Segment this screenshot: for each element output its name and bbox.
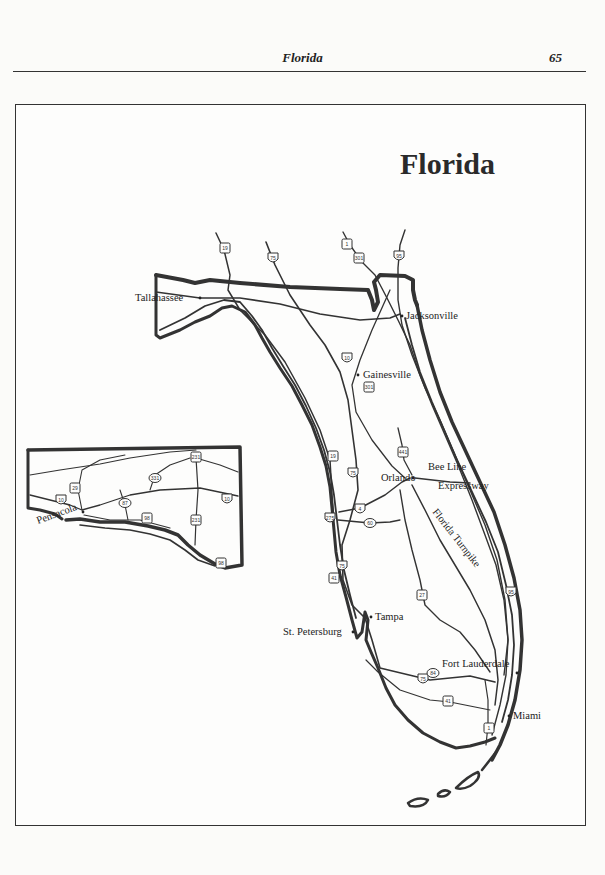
route-number: 441 bbox=[399, 449, 408, 455]
city-dot-icon bbox=[352, 631, 355, 634]
route-number: 41 bbox=[331, 575, 337, 581]
city-name: Jacksonville bbox=[406, 310, 458, 321]
route-shield-275: 275 bbox=[325, 513, 335, 522]
route-shield-10: 10 bbox=[342, 353, 352, 362]
route-number: 41 bbox=[445, 698, 451, 704]
route-shield-27: 27 bbox=[417, 590, 427, 600]
route-shield-75: 75 bbox=[337, 561, 347, 570]
city-tampa: Tampa bbox=[370, 611, 404, 622]
route-shield-75: 75 bbox=[348, 468, 358, 477]
route-number: 10 bbox=[58, 497, 64, 503]
route-shield-301: 301 bbox=[364, 382, 374, 392]
route-number: 275 bbox=[326, 515, 335, 521]
route-shield-95: 95 bbox=[394, 251, 404, 260]
route-shield-75: 75 bbox=[268, 253, 278, 262]
route-shield-4: 4 bbox=[355, 504, 365, 513]
route-shield-87: 87 bbox=[119, 499, 131, 508]
city-dot-icon bbox=[370, 616, 373, 619]
route-shield-301: 301 bbox=[354, 253, 364, 263]
city-name: Orlando bbox=[381, 472, 415, 483]
city-jacksonville: Jacksonville bbox=[401, 310, 459, 321]
route-shield-10: 10 bbox=[56, 495, 66, 504]
route-number: 75 bbox=[270, 255, 276, 261]
road-label: Expressway bbox=[438, 480, 489, 491]
inset-road-north bbox=[30, 450, 196, 475]
route-number: 75 bbox=[339, 563, 345, 569]
route-shield-441: 441 bbox=[398, 447, 408, 457]
route-shield-84: 84 bbox=[427, 669, 439, 678]
route-shield-60: 60 bbox=[364, 519, 376, 528]
route-number: 301 bbox=[355, 255, 364, 261]
route-shield-98: 98 bbox=[142, 513, 152, 523]
road-i10 bbox=[156, 292, 400, 320]
florida-map: 1975130195103014411975427560754127957584… bbox=[0, 0, 605, 875]
route-number: 331 bbox=[151, 475, 160, 481]
keys-island-1 bbox=[408, 799, 428, 807]
city-name: Fort Lauderdale bbox=[442, 658, 510, 669]
route-number: 301 bbox=[365, 384, 374, 390]
city-name: Pensacola bbox=[35, 501, 79, 526]
city-st-petersburg: St. Petersburg bbox=[283, 626, 354, 637]
keys-island-3 bbox=[456, 772, 479, 789]
city-miami: Miami bbox=[508, 710, 541, 721]
city-labels: TallahasseeJacksonvilleGainesvilleOrland… bbox=[35, 292, 541, 721]
route-shield-75: 75 bbox=[418, 674, 428, 683]
route-number: 75 bbox=[350, 470, 356, 476]
city-fort-lauderdale: Fort Lauderdale bbox=[442, 658, 518, 674]
route-shield-41: 41 bbox=[329, 573, 339, 583]
route-number: 10 bbox=[224, 496, 230, 502]
city-name: Tallahassee bbox=[135, 292, 184, 303]
route-number: 29 bbox=[72, 485, 78, 491]
route-shield-29: 29 bbox=[70, 483, 80, 493]
route-shield-1: 1 bbox=[484, 723, 494, 733]
keys-island-4 bbox=[482, 752, 496, 770]
route-number: 87 bbox=[122, 500, 128, 506]
city-dot-icon bbox=[516, 672, 519, 675]
keys-island-2 bbox=[438, 790, 450, 796]
city-dot-icon bbox=[357, 374, 360, 377]
route-shield-1: 1 bbox=[342, 239, 352, 249]
city-orlando: Orlando bbox=[381, 472, 415, 483]
route-number: 1 bbox=[346, 241, 349, 247]
city-pensacola: Pensacola bbox=[35, 501, 84, 526]
city-name: St. Petersburg bbox=[283, 626, 342, 637]
route-shield-98: 98 bbox=[216, 558, 226, 568]
route-number: 27 bbox=[419, 592, 425, 598]
city-name: Tampa bbox=[375, 611, 404, 622]
route-shield-231: 231 bbox=[191, 452, 201, 462]
route-shield-10: 10 bbox=[222, 494, 232, 503]
route-number: 84 bbox=[430, 670, 436, 676]
route-shield-19: 19 bbox=[328, 451, 338, 461]
city-gainesville: Gainesville bbox=[357, 369, 412, 380]
route-shield-19: 19 bbox=[220, 243, 230, 253]
road-i4 bbox=[339, 478, 410, 512]
road-us19 bbox=[216, 233, 334, 520]
route-shield-231: 231 bbox=[191, 515, 201, 525]
route-number: 19 bbox=[330, 453, 336, 459]
inset-road-east bbox=[196, 458, 238, 472]
road-label: Bee Line bbox=[428, 461, 467, 472]
route-number: 75 bbox=[420, 676, 426, 682]
route-number: 98 bbox=[218, 560, 224, 566]
city-dot-icon bbox=[199, 297, 202, 300]
route-shield-95: 95 bbox=[506, 587, 516, 596]
route-number: 95 bbox=[508, 589, 514, 595]
route-number: 19 bbox=[222, 245, 228, 251]
road-us1-south bbox=[485, 680, 488, 745]
route-number: 4 bbox=[359, 506, 362, 512]
route-number: 231 bbox=[192, 454, 201, 460]
route-number: 231 bbox=[192, 517, 201, 523]
city-dot-icon bbox=[508, 715, 511, 718]
city-name: Gainesville bbox=[363, 369, 411, 380]
route-shield-41: 41 bbox=[443, 696, 453, 706]
route-number: 1 bbox=[488, 725, 491, 731]
route-number: 10 bbox=[344, 355, 350, 361]
atlantic-coast-outer bbox=[417, 305, 522, 760]
city-dot-icon bbox=[401, 315, 404, 318]
route-number: 98 bbox=[144, 515, 150, 521]
route-number: 95 bbox=[396, 253, 402, 259]
route-number: 60 bbox=[367, 520, 373, 526]
inset-road-us231 bbox=[195, 458, 198, 545]
route-shield-331: 331 bbox=[149, 474, 161, 483]
city-name: Miami bbox=[513, 710, 541, 721]
